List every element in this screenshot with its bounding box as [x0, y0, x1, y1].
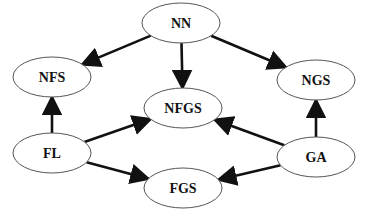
node-nfgs: NFGS [144, 88, 222, 128]
nodes: NNNFSNGSNFGSFLGAFGS [13, 3, 355, 208]
graph-diagram: NNNFSNGSNFGSFLGAFGS [0, 0, 368, 214]
edge-nn-to-nfs [82, 36, 151, 65]
edge-fl-to-fgs [87, 162, 149, 179]
node-label: GA [306, 150, 328, 165]
edge-nn-to-nfgs [182, 43, 183, 88]
edge-nn-to-ngs [211, 36, 286, 68]
node-nfs: NFS [13, 57, 91, 97]
node-label: FGS [169, 181, 196, 196]
node-label: NN [171, 16, 191, 31]
node-label: NFS [39, 70, 66, 85]
node-fgs: FGS [144, 168, 222, 208]
node-nn: NN [142, 3, 220, 43]
edge-ga-to-fgs [219, 165, 281, 179]
edge-ga-to-nfgs [215, 120, 285, 146]
edge-fl-to-nfgs [84, 119, 150, 142]
node-label: NGS [302, 73, 331, 88]
node-fl: FL [13, 133, 91, 173]
node-label: FL [43, 146, 61, 161]
node-label: NFGS [164, 101, 202, 116]
node-ngs: NGS [277, 60, 355, 100]
node-ga: GA [277, 137, 355, 177]
